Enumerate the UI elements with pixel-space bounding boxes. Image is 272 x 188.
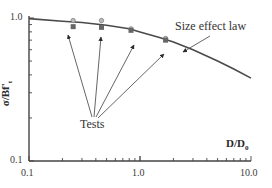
test-points	[71, 18, 168, 42]
x-tick-1: 1.0	[132, 167, 145, 178]
y-tick-0-1: 0.1	[10, 154, 23, 165]
y-tick-1: 1.0	[10, 11, 23, 22]
y-axis-label: σ/Bf't	[0, 81, 14, 106]
law-arrow	[183, 36, 210, 52]
axis-ticks	[29, 18, 251, 161]
size-effect-law-annotation: Size effect law	[175, 19, 246, 34]
size-effect-chart: 1.0 0.1 0.1 1.0 10.0 σ/Bf't D/D0 Size ef…	[0, 0, 272, 188]
tests-arrows	[68, 35, 164, 118]
x-axis-label: D/D0	[226, 137, 248, 152]
x-tick-0-1: 0.1	[21, 167, 34, 178]
tests-annotation: Tests	[80, 117, 105, 132]
x-tick-10: 10.0	[240, 167, 258, 178]
